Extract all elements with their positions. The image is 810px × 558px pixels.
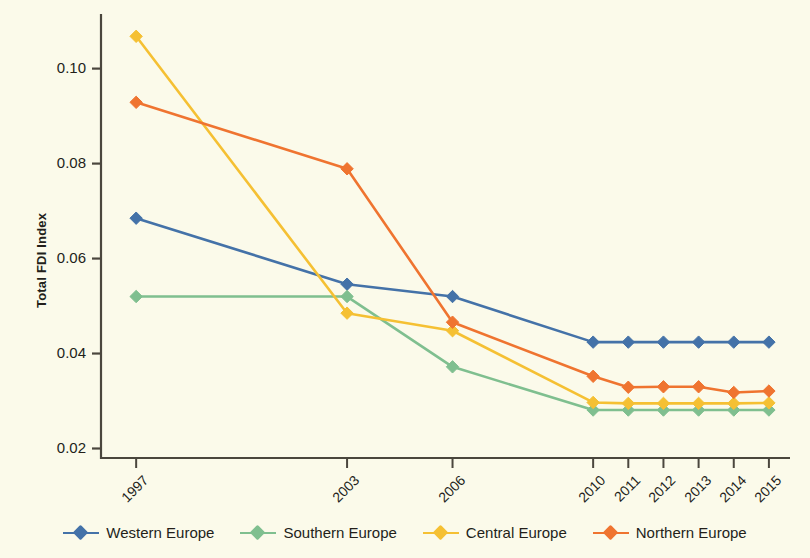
legend-item-label: Southern Europe [283, 524, 396, 541]
data-point-marker [341, 278, 353, 290]
legend-item-label: Northern Europe [636, 524, 747, 541]
data-point-marker [622, 381, 634, 393]
data-point-marker [692, 381, 704, 393]
data-point-marker [763, 397, 775, 409]
series-line [130, 290, 775, 416]
data-point-marker [130, 212, 142, 224]
fdi-index-line-chart: Total FDI Index 0.020.040.060.080.10 199… [0, 0, 810, 558]
y-tick-label: 0.04 [40, 344, 86, 361]
legend-item[interactable]: Western Europe [63, 524, 214, 541]
data-point-marker [763, 336, 775, 348]
data-point-marker [446, 290, 458, 302]
data-point-marker [587, 336, 599, 348]
data-point-marker [587, 396, 599, 408]
legend-item[interactable]: Southern Europe [240, 524, 396, 541]
y-tick-label: 0.06 [40, 249, 86, 266]
legend-marker-icon [593, 526, 629, 540]
data-point-marker [692, 336, 704, 348]
legend-marker-icon [240, 526, 276, 540]
legend-item[interactable]: Central Europe [423, 524, 567, 541]
legend-item-label: Central Europe [466, 524, 567, 541]
legend-item[interactable]: Northern Europe [593, 524, 747, 541]
legend-marker-icon [63, 526, 99, 540]
data-point-marker [130, 290, 142, 302]
chart-legend: Western EuropeSouthern EuropeCentral Eur… [0, 524, 810, 541]
data-point-marker [763, 385, 775, 397]
y-tick-label: 0.08 [40, 154, 86, 171]
axis-lines [101, 14, 790, 458]
plot-area [0, 0, 810, 558]
x-axis-ticks [136, 458, 769, 468]
y-tick-label: 0.02 [40, 439, 86, 456]
y-axis-ticks [92, 69, 101, 449]
data-point-marker [622, 336, 634, 348]
y-tick-label: 0.10 [40, 59, 86, 76]
data-point-marker [587, 370, 599, 382]
data-point-marker [728, 336, 740, 348]
legend-marker-icon [423, 526, 459, 540]
data-point-marker [657, 336, 669, 348]
data-point-marker [130, 96, 142, 108]
series-line [130, 30, 775, 409]
data-point-marker [728, 386, 740, 398]
data-point-marker [657, 381, 669, 393]
legend-item-label: Western Europe [106, 524, 214, 541]
